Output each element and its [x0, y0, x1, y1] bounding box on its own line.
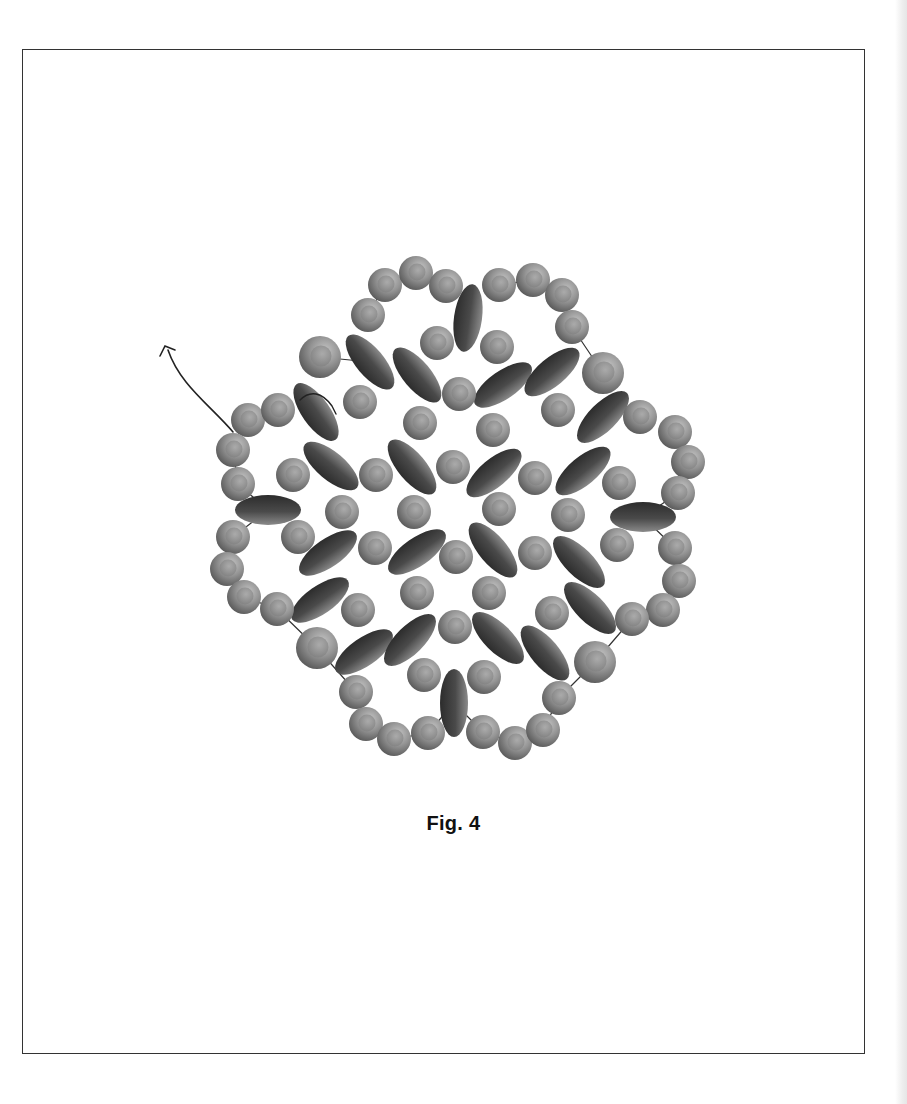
round-bead	[662, 564, 696, 598]
round-bead	[231, 403, 265, 437]
round-bead	[482, 492, 516, 526]
round-bead	[555, 310, 589, 344]
round-bead	[359, 458, 393, 492]
round-bead	[343, 385, 377, 419]
round-bead	[436, 450, 470, 484]
round-bead	[535, 596, 569, 630]
round-bead	[582, 352, 624, 394]
round-bead	[358, 531, 392, 565]
oval-bead	[610, 502, 676, 532]
oval-bead	[337, 327, 402, 397]
figure-caption: Fig. 4	[0, 812, 907, 835]
round-bead	[526, 713, 560, 747]
round-bead	[260, 592, 294, 626]
round-bead	[397, 495, 431, 529]
round-bead	[661, 476, 695, 510]
round-bead	[438, 610, 472, 644]
round-bead	[466, 715, 500, 749]
beaded-flower-diagram	[0, 0, 907, 1104]
round-bead	[467, 660, 501, 694]
round-bead	[411, 716, 445, 750]
round-bead	[602, 466, 636, 500]
round-bead	[281, 520, 315, 554]
round-bead	[658, 531, 692, 565]
round-bead	[671, 445, 705, 479]
round-bead	[442, 377, 476, 411]
round-bead	[480, 330, 514, 364]
round-bead	[439, 540, 473, 574]
round-bead	[516, 263, 550, 297]
round-bead	[400, 576, 434, 610]
round-bead	[407, 658, 441, 692]
round-bead	[221, 467, 255, 501]
round-bead	[541, 393, 575, 427]
round-bead	[227, 580, 261, 614]
round-bead	[429, 269, 463, 303]
round-bead	[574, 641, 616, 683]
round-bead	[476, 413, 510, 447]
round-bead	[339, 675, 373, 709]
round-bead	[658, 415, 692, 449]
round-bead	[600, 528, 634, 562]
round-bead	[399, 256, 433, 290]
round-bead	[542, 681, 576, 715]
round-bead	[216, 520, 250, 554]
round-bead	[216, 433, 250, 467]
round-bead	[482, 268, 516, 302]
round-bead	[403, 406, 437, 440]
round-bead	[551, 498, 585, 532]
round-bead	[646, 593, 680, 627]
round-bead	[368, 268, 402, 302]
round-bead	[518, 536, 552, 570]
round-bead	[276, 458, 310, 492]
round-bead	[377, 722, 411, 756]
round-bead	[296, 627, 338, 669]
round-bead	[518, 461, 552, 495]
round-bead	[341, 593, 375, 627]
round-bead	[325, 495, 359, 529]
oval-bead	[440, 669, 468, 737]
round-bead	[420, 326, 454, 360]
round-bead	[261, 393, 295, 427]
round-bead	[299, 336, 341, 378]
round-bead	[615, 602, 649, 636]
round-bead	[472, 576, 506, 610]
round-bead	[623, 400, 657, 434]
round-bead	[351, 298, 385, 332]
round-bead	[545, 278, 579, 312]
